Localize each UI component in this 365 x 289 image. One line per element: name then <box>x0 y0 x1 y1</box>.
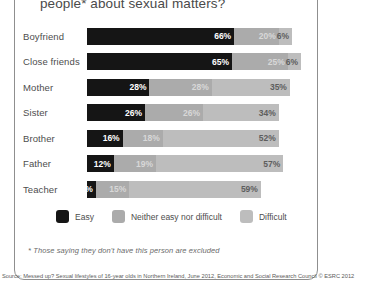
bar-segment-easy: 28% <box>87 79 149 96</box>
stacked-bar: 66%20%6% <box>87 28 310 45</box>
legend-label: Easy <box>75 212 94 222</box>
bar-segment-easy: 65% <box>87 53 232 70</box>
legend-label: Neither easy nor difficult <box>131 212 222 222</box>
bar-segment-easy: 4% <box>87 181 96 198</box>
segment-value-label: 15% <box>109 184 129 194</box>
segment-value-label: 4% <box>87 184 96 194</box>
segment-value-label: 6% <box>277 31 292 41</box>
segment-value-label: 57% <box>263 159 283 169</box>
segment-value-label: 65% <box>212 57 232 67</box>
stacked-bar: 65%25%6% <box>87 53 310 70</box>
segment-value-label: 66% <box>214 31 234 41</box>
bar-segment-neither: 28% <box>149 79 211 96</box>
chart-source: Source: Messed up? Sexual lifestyles of … <box>2 273 354 279</box>
legend-item: Difficult <box>240 210 287 223</box>
stacked-bar: 26%26%34% <box>87 104 310 121</box>
segment-value-label: 28% <box>129 82 149 92</box>
legend-item: Easy <box>56 210 94 223</box>
chart-footnote: * Those saying they don't have this pers… <box>28 246 220 255</box>
chart-title: people* about sexual matters? <box>40 0 305 12</box>
chart-row: Father12%19%57% <box>23 155 313 173</box>
segment-value-label: 28% <box>192 82 212 92</box>
bar-segment-easy: 12% <box>87 155 114 172</box>
segment-value-label: 16% <box>103 133 123 143</box>
row-label: Teacher <box>23 184 87 195</box>
legend-swatch <box>112 210 125 223</box>
bar-segment-difficult: 35% <box>212 79 290 96</box>
segment-value-label: 52% <box>259 133 279 143</box>
bar-segment-easy: 66% <box>87 28 234 45</box>
stacked-bar: 16%18%52% <box>87 130 310 147</box>
segment-value-label: 20% <box>259 31 279 41</box>
bar-segment-neither: 25% <box>232 53 288 70</box>
chart-legend: EasyNeither easy nor difficultDifficult <box>56 210 305 223</box>
legend-swatch <box>240 210 253 223</box>
row-label: Father <box>23 158 87 169</box>
legend-item: Neither easy nor difficult <box>112 210 222 223</box>
segment-value-label: 26% <box>125 108 145 118</box>
chart-row: Sister26%26%34% <box>23 104 313 122</box>
bar-segment-neither: 19% <box>114 155 156 172</box>
chart-card: people* about sexual matters? Boyfriend6… <box>0 0 365 289</box>
bar-segment-difficult: 52% <box>163 130 279 147</box>
bar-segment-neither: 20% <box>234 28 279 45</box>
bar-segment-neither: 18% <box>123 130 163 147</box>
bar-segment-difficult: 59% <box>129 181 261 198</box>
stacked-bar: 12%19%57% <box>87 155 310 172</box>
bar-segment-easy: 16% <box>87 130 123 147</box>
row-label: Close friends <box>23 56 87 67</box>
bar-segment-difficult: 34% <box>203 104 279 121</box>
segment-value-label: 12% <box>94 159 114 169</box>
bar-segment-difficult: 6% <box>288 53 301 70</box>
segment-value-label: 34% <box>259 108 279 118</box>
chart-row: Boyfriend66%20%6% <box>23 27 313 45</box>
segment-value-label: 59% <box>241 184 261 194</box>
segment-value-label: 35% <box>270 82 290 92</box>
bar-segment-neither: 15% <box>96 181 129 198</box>
bar-segment-easy: 26% <box>87 104 145 121</box>
segment-value-label: 18% <box>143 133 163 143</box>
legend-label: Difficult <box>259 212 287 222</box>
segment-value-label: 6% <box>286 57 301 67</box>
stacked-bar: 28%28%35% <box>87 79 310 96</box>
segment-value-label: 26% <box>183 108 203 118</box>
chart-row: Brother16%18%52% <box>23 129 313 147</box>
row-label: Brother <box>23 133 87 144</box>
bar-segment-difficult: 6% <box>279 28 292 45</box>
segment-value-label: 19% <box>136 159 156 169</box>
segment-value-label: 25% <box>268 57 288 67</box>
row-label: Mother <box>23 82 87 93</box>
stacked-bar-chart: Boyfriend66%20%6%Close friends65%25%6%Mo… <box>23 27 313 206</box>
row-label: Sister <box>23 107 87 118</box>
chart-row: Mother28%28%35% <box>23 78 313 96</box>
legend-swatch <box>56 210 69 223</box>
chart-row: Teacher4%15%59% <box>23 180 313 198</box>
row-label: Boyfriend <box>23 31 87 42</box>
chart-row: Close friends65%25%6% <box>23 53 313 71</box>
stacked-bar: 4%15%59% <box>87 181 310 198</box>
bar-segment-difficult: 57% <box>156 155 283 172</box>
bar-segment-neither: 26% <box>145 104 203 121</box>
